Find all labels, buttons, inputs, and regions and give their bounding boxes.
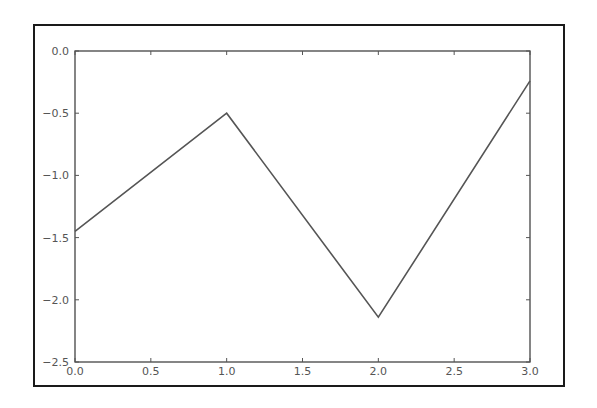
- plot-area: [75, 51, 530, 362]
- y-tick-label: −2.0: [42, 294, 69, 307]
- x-tick-label: 0.5: [142, 365, 160, 378]
- x-tick-label: 1.5: [294, 365, 312, 378]
- x-tick-label: 3.0: [521, 365, 539, 378]
- line-chart: 0.00.51.01.52.02.53.0 0.0−0.5−1.0−1.5−2.…: [0, 0, 597, 408]
- x-tick-label: 2.5: [445, 365, 463, 378]
- x-tick-label: 2.0: [370, 365, 388, 378]
- y-tick-label: 0.0: [52, 45, 70, 58]
- y-tick-label: −1.0: [42, 169, 69, 182]
- y-tick-label: −2.5: [42, 356, 69, 369]
- x-tick-label: 1.0: [218, 365, 236, 378]
- y-tick-label: −0.5: [42, 107, 69, 120]
- y-tick-label: −1.5: [42, 232, 69, 245]
